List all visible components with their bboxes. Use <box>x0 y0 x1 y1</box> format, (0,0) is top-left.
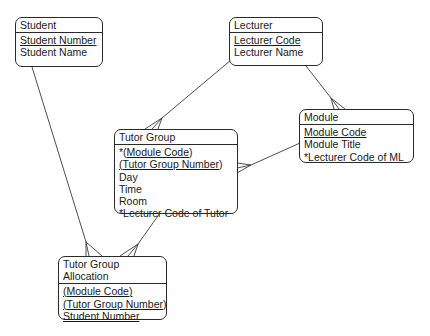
attribute-key-text: Tutor Group Number <box>67 298 163 310</box>
entity-title: Module <box>300 110 413 125</box>
attribute-primary-key: (Tutor Group Number) <box>119 158 233 170</box>
entity-lecturer: Lecturer Lecturer Code Lecturer Name <box>229 17 323 66</box>
attribute-primary-key: Student Number <box>63 310 162 322</box>
entity-attributes: Lecturer Code Lecturer Name <box>230 33 322 60</box>
attribute-primary-key: (Tutor Group Number) <box>63 298 162 310</box>
attribute-foreign-key: *Lecturer Code of ML <box>304 151 409 163</box>
entity-title-line: Tutor Group <box>119 131 233 143</box>
entity-title: Tutor Group <box>115 130 237 145</box>
rel-lecturer-module <box>306 66 345 109</box>
entity-attributes: Student Number Student Name <box>16 33 102 60</box>
attribute: Student Name <box>20 46 98 58</box>
attribute-suffix: ) <box>189 146 193 158</box>
entity-title: Lecturer <box>230 18 322 33</box>
attribute: Lecturer Name <box>234 46 318 58</box>
entity-title-line: Lecturer <box>234 19 318 31</box>
entity-module: Module Module Code Module Title *Lecture… <box>299 109 414 163</box>
attribute-primary-key: (Module Code) <box>63 285 162 297</box>
entity-tutor-group-allocation: Tutor Group Allocation (Module Code) (Tu… <box>58 256 167 320</box>
attribute-suffix: ) <box>163 298 167 310</box>
attribute-suffix: ) <box>129 285 133 297</box>
attribute-primary-key: Lecturer Code <box>234 34 318 46</box>
attribute-key-text: Tutor Group Number <box>123 158 219 170</box>
entity-student: Student Student Number Student Name <box>15 17 103 67</box>
entity-title: Tutor Group Allocation <box>59 257 166 284</box>
rel-student-tutor-group-allocation <box>32 67 102 256</box>
entity-title-line: Tutor Group <box>63 258 162 270</box>
attribute: Time <box>119 183 233 195</box>
entity-title-line: Student <box>20 19 98 31</box>
entity-attributes: *(Module Code) (Tutor Group Number) Day … <box>115 145 237 221</box>
attribute-suffix: ) <box>219 158 223 170</box>
entity-attributes: (Module Code) (Tutor Group Number) Stude… <box>59 284 166 324</box>
entity-title-line: Module <box>304 111 409 123</box>
attribute: Module Title <box>304 138 409 150</box>
rel-module-tutor-group <box>237 143 300 173</box>
attribute-prefix: *( <box>119 146 127 158</box>
attribute-primary-key: Student Number <box>20 34 98 46</box>
entity-tutor-group: Tutor Group *(Module Code) (Tutor Group … <box>114 129 238 214</box>
rel-lecturer-tutor-group <box>145 60 231 129</box>
attribute-foreign-key: *Lecturer Code of Tutor <box>119 207 233 219</box>
attribute: Room <box>119 195 233 207</box>
attribute-key-text: Module Code <box>127 146 189 158</box>
entity-title: Student <box>16 18 102 33</box>
attribute: Day <box>119 171 233 183</box>
attribute-primary-key: Module Code <box>304 126 409 138</box>
attribute-primary-key: *(Module Code) <box>119 146 233 158</box>
entity-attributes: Module Code Module Title *Lecturer Code … <box>300 125 413 165</box>
attribute-key-text: Module Code <box>67 285 129 297</box>
entity-title-line: Allocation <box>63 270 162 282</box>
